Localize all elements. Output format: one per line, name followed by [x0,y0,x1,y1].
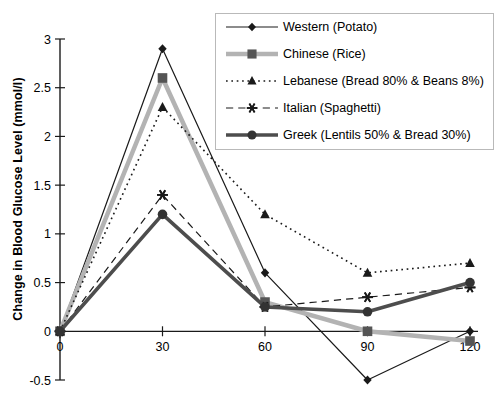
y-axis-tick-label: 3 [44,33,51,47]
x-axis-tick-label: 60 [258,340,272,354]
marker-square [363,326,373,336]
legend-item[interactable]: Western (Potato) [224,20,377,34]
legend-item-label: Italian (Spaghetti) [283,101,381,115]
marker-triangle [260,209,270,218]
marker-circle [465,278,475,288]
x-axis-tick-label: 30 [156,340,170,354]
y-axis-tick-label: -0.5 [29,374,51,388]
legend-item-label: Lebanese (Bread 80% & Beans 8%) [283,74,484,88]
legend-item[interactable]: Chinese (Rice) [224,47,366,61]
y-axis-tick-label: 0 [44,325,51,339]
x-axis-tick-label: 0 [57,340,64,354]
legend-item-label: Western (Potato) [283,20,377,34]
legend-item-label: Chinese (Rice) [283,47,366,61]
legend-item[interactable]: Lebanese (Bread 80% & Beans 8%) [224,74,484,88]
marker-circle [260,302,270,312]
y-axis-tick-label: 0.5 [34,276,51,290]
y-axis-tick-label: 2.5 [34,81,51,95]
marker-diamond [158,44,166,53]
legend-marker-icon [224,47,280,61]
legend-marker-icon [224,74,280,88]
y-axis-tick-label: 1.5 [34,179,51,193]
chart-legend: Western (Potato)Chinese (Rice)Lebanese (… [215,13,494,150]
legend-marker-icon [224,101,280,115]
marker-diamond [466,327,474,336]
marker-circle [363,307,373,317]
marker-diamond [248,22,256,31]
marker-square [465,336,475,346]
legend-item-label: Greek (Lentils 50% & Bread 30%) [283,128,471,142]
legend-item[interactable]: Italian (Spaghetti) [224,101,381,115]
marker-triangle [158,102,168,111]
legend-marker-icon [224,20,280,34]
y-axis-tick-label: 2 [44,130,51,144]
marker-circle [247,130,256,139]
marker-triangle [465,258,475,267]
legend-marker-icon [224,128,280,142]
legend-item[interactable]: Greek (Lentils 50% & Bread 30%) [224,128,471,142]
marker-square [158,73,168,83]
y-axis-tick-label: 1 [44,227,51,241]
marker-square [247,49,256,58]
x-axis-tick-label: 90 [361,340,375,354]
marker-circle [158,210,168,220]
marker-circle [55,326,65,336]
